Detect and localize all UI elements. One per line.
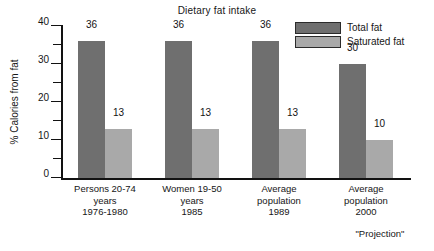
bar-value-label: 36 [173,19,184,30]
bar-total-fat[interactable]: 30 [339,64,366,178]
chart-container: Dietary fat intake % Calories from fat 0… [0,0,434,251]
y-tick-minor-35 [53,44,62,45]
y-tick-major-0 [51,177,62,179]
y-tick-label-30: 30 [38,54,49,65]
y-tick-minor-25 [53,82,62,83]
bar-saturated-fat[interactable]: 10 [366,140,393,178]
legend-item-saturated-fat: Saturated fat [295,35,404,48]
bar-value-label: 13 [287,107,298,118]
y-tick-minor-15 [53,120,62,121]
y-tick-major-40 [51,25,62,27]
y-tick-label-40: 40 [38,16,49,27]
y-tick-major-10 [51,139,62,141]
y-axis-title: % Calories from fat [9,59,20,144]
x-axis-label: Persons 20-74 years 1976-1980 [55,183,155,218]
chart-title: Dietary fat intake [0,5,434,16]
bar-total-fat[interactable]: 36 [252,41,279,178]
x-axis-label: Women 19-50 years 1985 [142,183,242,218]
bar-saturated-fat[interactable]: 13 [279,129,306,178]
chart-legend: Total fat Saturated fat [295,21,404,49]
y-tick-label-20: 20 [38,92,49,103]
projection-footnote: "Projection" [330,228,430,239]
bar-value-label: 36 [86,19,97,30]
x-axis-label: Average population 2000 [316,183,416,218]
y-tick-label-0: 0 [43,168,49,179]
x-axis-label: Average population 1989 [229,183,329,218]
bar-value-label: 13 [113,107,124,118]
bar-group: 3613 [78,26,132,178]
y-tick-major-20 [51,101,62,103]
legend-label-saturated-fat: Saturated fat [347,36,404,47]
bar-value-label: 10 [374,118,385,129]
bar-saturated-fat[interactable]: 13 [105,129,132,178]
y-tick-label-10: 10 [38,130,49,141]
legend-label-total-fat: Total fat [347,22,382,33]
bar-value-label: 36 [260,19,271,30]
bar-group: 3613 [165,26,219,178]
bar-value-label: 13 [200,107,211,118]
bar-total-fat[interactable]: 36 [78,41,105,178]
y-tick-major-30 [51,63,62,65]
bar-saturated-fat[interactable]: 13 [192,129,219,178]
y-tick-minor-5 [53,158,62,159]
bar-total-fat[interactable]: 36 [165,41,192,178]
legend-swatch-total-fat [295,22,341,34]
legend-swatch-saturated-fat [295,36,341,48]
legend-item-total-fat: Total fat [295,21,404,34]
